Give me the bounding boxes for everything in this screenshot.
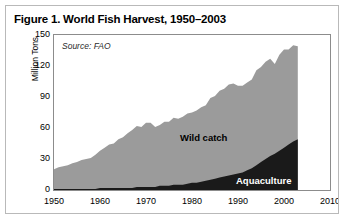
series-label-aquaculture: Aquaculture — [236, 175, 291, 186]
stacked-area-series — [54, 35, 330, 190]
plot-area: Source: FAO Wild catch Aquaculture — [53, 34, 331, 191]
source-note: Source: FAO — [62, 41, 111, 51]
series-label-wild-catch: Wild catch — [180, 132, 227, 143]
y-axis-tick-label: 0 — [22, 185, 50, 194]
y-axis-title: Million Tons — [30, 14, 40, 104]
page-title: Figure 1. World Fish Harvest, 1950–2003 — [14, 13, 226, 25]
x-axis-tick-label: 1980 — [172, 197, 212, 206]
figure-container: Figure 1. World Fish Harvest, 1950–2003 … — [5, 5, 339, 214]
x-axis-tick-label: 1970 — [126, 197, 166, 206]
x-axis-tick-label: 2010 — [310, 197, 339, 206]
y-axis-tick-label: 30 — [22, 154, 50, 163]
x-axis-tick-label: 1950 — [34, 197, 74, 206]
x-axis-tick-labels: 1950196019701980199020002010 — [53, 194, 331, 208]
x-axis-tick-label: 2000 — [264, 197, 304, 206]
plot-inner: Source: FAO Wild catch Aquaculture — [54, 35, 330, 190]
x-axis-tick-label: 1990 — [218, 197, 258, 206]
y-axis-tick-label: 60 — [22, 123, 50, 132]
x-axis-tick-label: 1960 — [80, 197, 120, 206]
